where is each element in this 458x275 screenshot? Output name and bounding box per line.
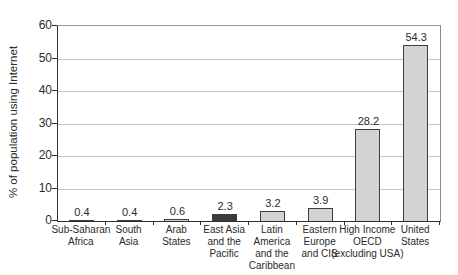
- bar-latin-america-and-the-caribbean: [260, 211, 285, 221]
- bar-east-asia-and-the-pacific: [212, 214, 237, 221]
- bar-sub-saharan-africa: [69, 220, 94, 221]
- bar-slot: 0.6: [154, 26, 202, 221]
- y-tick-label: 40: [0, 84, 52, 96]
- bar-value-label: 54.3: [380, 32, 452, 43]
- bar-slot: 0.4: [106, 26, 154, 221]
- plot-area: 0.40.40.62.33.23.928.254.3: [57, 25, 441, 222]
- bar-chart-figure: % of population using Internet 010203040…: [0, 0, 458, 275]
- bar-slot: 54.3: [392, 26, 440, 221]
- bar-high-income-oecd-excluding-usa: [355, 129, 380, 221]
- bar-united-states: [403, 45, 428, 221]
- bar-eastern-europe-and-cis: [308, 208, 333, 221]
- bar-slot: 2.3: [201, 26, 249, 221]
- y-tick-label: 20: [0, 149, 52, 161]
- y-tick-label: 60: [0, 19, 52, 31]
- y-tick-label: 50: [0, 52, 52, 64]
- bar-slot: 3.2: [249, 26, 297, 221]
- bar-slot: 0.4: [58, 26, 106, 221]
- bar-arab-states: [164, 219, 189, 221]
- x-category-label: UnitedStates: [377, 224, 453, 248]
- y-tick-label: 10: [0, 182, 52, 194]
- bar-south-asia: [117, 220, 142, 221]
- y-tick-label: 30: [0, 117, 52, 129]
- bar-slot: 28.2: [345, 26, 393, 221]
